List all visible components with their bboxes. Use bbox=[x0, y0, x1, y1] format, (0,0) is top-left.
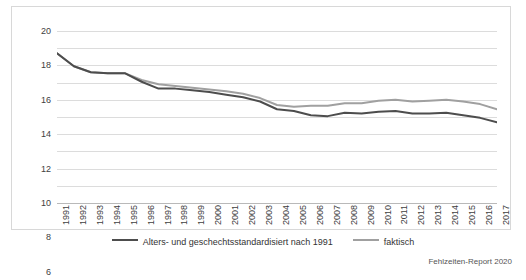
y-axis-tick-label: 10 bbox=[41, 198, 51, 208]
x-axis-tick-label: 2014 bbox=[450, 205, 460, 225]
x-axis-tick-label: 1996 bbox=[146, 205, 156, 225]
x-axis-tick-label: 2003 bbox=[264, 205, 274, 225]
x-axis-tick-label: 2015 bbox=[467, 205, 477, 225]
y-axis-tick-label: 16 bbox=[41, 95, 51, 105]
chart-frame: 02468101214161820 1991199219931994199519… bbox=[11, 6, 511, 230]
x-axis-tick-label: 2001 bbox=[230, 205, 240, 225]
legend-swatch bbox=[353, 239, 379, 241]
x-axis-tick-label: 2010 bbox=[383, 205, 393, 225]
legend-label: Alters- und geschechtsstandardisiert nac… bbox=[143, 237, 333, 247]
x-axis-tick-label: 2000 bbox=[213, 205, 223, 225]
x-axis-tick-label: 1992 bbox=[78, 205, 88, 225]
x-axis-tick-label: 2005 bbox=[298, 205, 308, 225]
x-axis-tick-label: 1998 bbox=[179, 205, 189, 225]
legend-item: faktisch bbox=[353, 237, 415, 247]
x-axis-tick-label: 2007 bbox=[332, 205, 342, 225]
x-axis-tick-label: 2016 bbox=[484, 205, 494, 225]
chart-figure: 02468101214161820 1991199219931994199519… bbox=[0, 0, 526, 280]
grid-line: 0 bbox=[57, 203, 497, 204]
y-axis-tick-label: 18 bbox=[41, 60, 51, 70]
y-axis-tick-label: 20 bbox=[41, 26, 51, 36]
x-axis-tick-label: 2011 bbox=[399, 205, 409, 224]
y-axis-tick-label: 14 bbox=[41, 129, 51, 139]
x-axis-tick-label: 1997 bbox=[163, 205, 173, 225]
plot-area: 02468101214161820 bbox=[57, 31, 497, 203]
x-axis-tick-label: 2002 bbox=[247, 205, 257, 225]
y-axis-tick-label: 12 bbox=[41, 164, 51, 174]
x-axis-tick-label: 1999 bbox=[196, 205, 206, 225]
x-axis-tick-label: 2008 bbox=[349, 205, 359, 225]
chart-legend: Alters- und geschechtsstandardisiert nac… bbox=[0, 236, 526, 247]
chart-credit: Fehlzeiten-Report 2020 bbox=[428, 257, 512, 266]
y-axis-tick-label: 6 bbox=[46, 267, 51, 277]
series-line bbox=[57, 53, 497, 109]
x-axis-labels: 1991199219931994199519961997199819992000… bbox=[57, 205, 497, 263]
x-axis-tick-label: 1995 bbox=[129, 205, 139, 225]
legend-item: Alters- und geschechtsstandardisiert nac… bbox=[112, 237, 333, 247]
x-axis-tick-label: 2006 bbox=[315, 205, 325, 225]
series-lines bbox=[57, 31, 497, 203]
legend-swatch bbox=[112, 239, 138, 241]
x-axis-tick-label: 1993 bbox=[95, 205, 105, 225]
x-axis-tick-label: 2004 bbox=[281, 205, 291, 225]
series-line bbox=[57, 53, 497, 122]
x-axis-tick-label: 1991 bbox=[61, 205, 71, 225]
x-axis-tick-label: 2009 bbox=[366, 205, 376, 225]
x-axis-tick-label: 1994 bbox=[112, 205, 122, 225]
x-axis-tick-label: 2013 bbox=[433, 205, 443, 225]
x-axis-tick-label: 2012 bbox=[416, 205, 426, 225]
x-axis-tick-label: 2017 bbox=[501, 205, 511, 225]
legend-label: faktisch bbox=[384, 237, 415, 247]
